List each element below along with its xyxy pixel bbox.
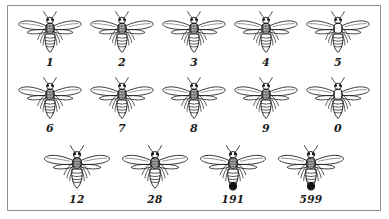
bee-illustration-icon (42, 144, 112, 192)
bee-figure-4: 4 (230, 10, 302, 68)
bee-figure-7: 7 (86, 76, 158, 134)
bee-illustration-icon (120, 144, 190, 192)
bee-figure-9: 9 (230, 76, 302, 134)
bee-figure-28: 28 (116, 144, 194, 205)
bee-figure-2: 2 (86, 10, 158, 68)
bee-illustration-icon (89, 10, 155, 56)
bee-illustration-icon (233, 10, 299, 56)
bee-figure-6: 6 (14, 76, 86, 134)
bee-row-3: 1228191599 (8, 144, 380, 205)
bee-figure-12: 12 (38, 144, 116, 205)
bee-figure-599: 599 (272, 144, 350, 205)
bee-illustration-icon (198, 144, 268, 192)
bee-illustration-icon (305, 76, 371, 122)
bee-label: 8 (190, 123, 198, 134)
bee-row-1: 12345 (8, 10, 380, 68)
bee-label: 1 (46, 57, 54, 68)
bee-illustration-icon (17, 76, 83, 122)
bee-figure-3: 3 (158, 10, 230, 68)
bee-illustration-icon (161, 10, 227, 56)
bee-label: 12 (69, 194, 84, 205)
bee-figure-8: 8 (158, 76, 230, 134)
bee-label: 5 (334, 57, 342, 68)
figure-frame: 12345 67890 1228191599 (7, 5, 381, 211)
bee-figure-191: 191 (194, 144, 272, 205)
bee-illustration-icon (161, 76, 227, 122)
bee-illustration-icon (89, 76, 155, 122)
bee-label: 3 (190, 57, 198, 68)
bee-row-2: 67890 (8, 76, 380, 134)
bee-illustration-icon (305, 10, 371, 56)
bee-illustration-icon (233, 76, 299, 122)
bee-label: 28 (147, 194, 162, 205)
bee-label: 191 (221, 194, 244, 205)
bee-figure-5: 5 (302, 10, 374, 68)
bee-label: 2 (118, 57, 126, 68)
bee-label: 0 (334, 123, 342, 134)
bee-figure-0: 0 (302, 76, 374, 134)
bee-illustration-icon (276, 144, 346, 192)
bee-label: 4 (262, 57, 270, 68)
bee-figure-1: 1 (14, 10, 86, 68)
bee-illustration-icon (17, 10, 83, 56)
bee-label: 6 (46, 123, 54, 134)
bee-label: 7 (118, 123, 126, 134)
bee-label: 9 (262, 123, 270, 134)
bee-label: 599 (299, 194, 322, 205)
